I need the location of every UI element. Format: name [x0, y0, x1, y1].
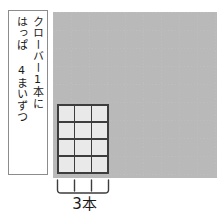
array-cells — [57, 104, 109, 174]
problem-statement-line-right: クローバー1本に — [28, 16, 43, 168]
problem-statement-line-left: はっぱ 4まいずつ — [12, 16, 27, 168]
bracket-label: 3本 — [57, 196, 113, 212]
problem-statement-box: クローバー1本に はっぱ 4まいずつ — [8, 10, 48, 175]
shaded-array-block — [57, 104, 109, 174]
worksheet-canvas: クローバー1本に はっぱ 4まいずつ — [0, 0, 217, 222]
